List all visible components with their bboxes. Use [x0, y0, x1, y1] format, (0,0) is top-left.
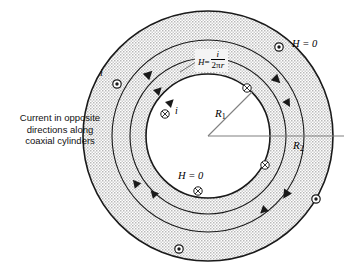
- figure-caption: Current in opposite directions along coa…: [4, 112, 116, 147]
- cross-into-page-icon: [161, 110, 169, 118]
- cross-into-page-icon: [194, 187, 202, 195]
- label-current-outer: i: [100, 67, 103, 78]
- cross-into-page-icon: [261, 161, 269, 169]
- dot-out-of-page-icon: [275, 43, 283, 51]
- label-field-equation: H=i2πr: [195, 49, 228, 72]
- label-h-zero-inside: H = 0: [178, 170, 203, 181]
- label-radius-r1: R1: [215, 107, 226, 121]
- dot-out-of-page-icon: [175, 245, 183, 253]
- label-h-zero-outside: H = 0: [292, 38, 317, 49]
- cross-into-page-icon: [243, 84, 251, 92]
- dot-out-of-page-icon: [113, 80, 121, 88]
- label-current-inner: i: [175, 105, 178, 116]
- label-radius-r2: R2: [293, 139, 304, 153]
- dot-out-of-page-icon: [312, 195, 320, 203]
